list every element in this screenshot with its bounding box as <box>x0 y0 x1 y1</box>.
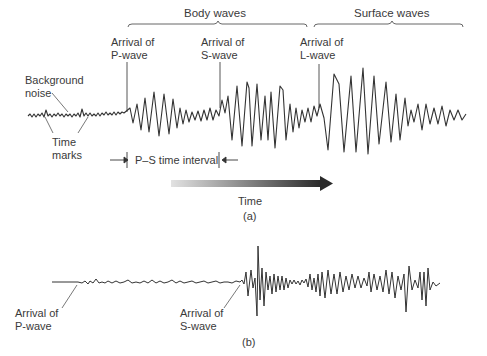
s-wave-arrival-label-a: Arrival of S-wave <box>201 36 244 62</box>
ps-interval-label: P–S time interval <box>135 154 218 167</box>
surface-waves-label: Surface waves <box>354 7 429 19</box>
panel-b-caption: (b) <box>242 336 255 349</box>
background-noise-label: Background noise <box>25 74 84 100</box>
p-wave-arrival-label-b: Arrival of P-wave <box>15 307 58 333</box>
panel-a-caption: (a) <box>243 210 256 223</box>
leader-lines-b <box>62 285 240 308</box>
body-waves-bracket <box>128 21 307 27</box>
s-wave-arrival-label-b: Arrival of S-wave <box>180 307 223 333</box>
time-marks-label: Time marks <box>52 136 82 162</box>
time-arrow <box>171 176 333 191</box>
surface-waves-bracket <box>314 21 463 27</box>
p-wave-arrival-label-a: Arrival of P-wave <box>111 36 154 62</box>
seismogram-trace-b <box>52 246 440 316</box>
l-wave-arrival-label-a: Arrival of L-wave <box>300 36 343 62</box>
seismogram-trace-a <box>28 68 466 154</box>
body-waves-label: Body waves <box>184 7 246 19</box>
time-arrow-label: Time <box>238 195 262 208</box>
